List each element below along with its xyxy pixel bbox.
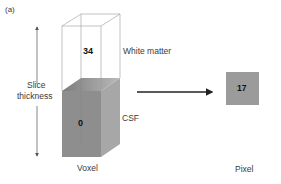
- pixel-caption: Pixel: [235, 164, 253, 174]
- panel-label: (a): [5, 5, 15, 14]
- csf-label: CSF: [122, 113, 139, 123]
- voxel-caption: Voxel: [77, 163, 98, 173]
- csf-side-face: [101, 78, 120, 157]
- pixel-value: 17: [237, 83, 246, 93]
- white-matter-value: 34: [83, 46, 93, 56]
- slice-label-line1: Slice: [27, 80, 45, 90]
- csf-value: 0: [78, 118, 83, 128]
- voxel-cube: [62, 14, 120, 157]
- white-matter-label: White matter: [123, 46, 171, 56]
- slice-label-line2: thickness: [17, 91, 52, 101]
